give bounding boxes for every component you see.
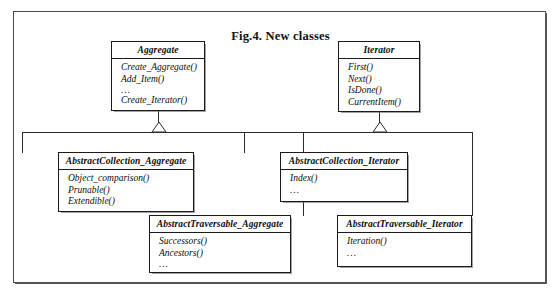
operation-item: Ancestors() <box>159 248 286 260</box>
operation-item: Create_Aggregate() <box>121 62 200 74</box>
class-box-iterator[interactable]: Iterator First() Next() IsDone() Current… <box>338 41 420 112</box>
class-name-abstractcollection-aggregate: AbstractCollection_Aggregate <box>59 153 193 170</box>
class-box-abstracttraversable-iterator[interactable]: AbstractTraversable_Iterator Iteration()… <box>337 215 472 267</box>
connector-to-abstractcollection-aggregate <box>22 132 23 153</box>
class-box-abstracttraversable-aggregate[interactable]: AbstractTraversable_Aggregate Successors… <box>149 215 291 273</box>
class-operations-abstractcollection-aggregate: Object_comparison() Prunable() Extendibl… <box>59 170 193 211</box>
class-name-abstracttraversable-iterator: AbstractTraversable_Iterator <box>338 216 471 233</box>
class-box-aggregate[interactable]: Aggregate Create_Aggregate() Add_Item() … <box>111 41 205 111</box>
class-box-abstractcollection-iterator[interactable]: AbstractCollection_Iterator Index() ... <box>280 152 408 202</box>
figure-title: Fig.4. New classes <box>14 29 547 44</box>
class-box-abstractcollection-aggregate[interactable]: AbstractCollection_Aggregate Object_comp… <box>58 152 194 212</box>
operation-item: Index() <box>290 173 403 185</box>
connector-to-abstracttraversable-iterator <box>472 132 473 216</box>
operation-item: IsDone() <box>348 85 415 97</box>
operation-item: ... <box>347 248 467 258</box>
operation-item: ... <box>159 259 286 269</box>
operation-item: Add_Item() <box>121 74 200 86</box>
connector-to-abstractcollection-iterator <box>244 132 245 153</box>
generalization-triangle-iterator <box>372 122 388 133</box>
operation-item: Create_Iterator() <box>121 95 200 107</box>
operation-item: Next() <box>348 74 415 86</box>
class-operations-aggregate: Create_Aggregate() Add_Item() ... Create… <box>112 59 204 110</box>
operation-item: Iteration() <box>347 236 467 248</box>
operation-item: Prunable() <box>68 185 189 197</box>
class-operations-abstracttraversable-iterator: Iteration() ... <box>338 233 471 266</box>
operation-item: ... <box>290 185 403 195</box>
operation-item: Extendible() <box>68 196 189 208</box>
operation-item: CurrentItem() <box>348 97 415 109</box>
figure-frame: Fig.4. New classes Aggregate <box>13 11 546 283</box>
operation-item: Successors() <box>159 236 286 248</box>
generalization-triangle-aggregate <box>151 122 167 133</box>
figure-screenshot: Fig.4. New classes Aggregate <box>0 0 560 294</box>
class-name-abstracttraversable-aggregate: AbstractTraversable_Aggregate <box>150 216 290 233</box>
operation-item: Object_comparison() <box>68 173 189 185</box>
operation-item: First() <box>348 62 415 74</box>
class-operations-abstractcollection-iterator: Index() ... <box>281 170 407 201</box>
class-name-abstractcollection-iterator: AbstractCollection_Iterator <box>281 153 407 170</box>
class-name-iterator: Iterator <box>339 42 419 59</box>
class-operations-iterator: First() Next() IsDone() CurrentItem() <box>339 59 419 111</box>
class-operations-abstracttraversable-aggregate: Successors() Ancestors() ... <box>150 233 290 272</box>
operation-item: ... <box>121 85 200 95</box>
connector-iterator-bar <box>244 132 472 133</box>
class-name-aggregate: Aggregate <box>112 42 204 59</box>
